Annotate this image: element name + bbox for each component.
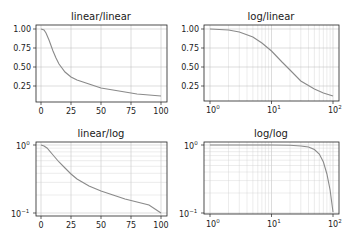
y-tick-label: 1.00 bbox=[13, 25, 31, 34]
panel-title: log/linear bbox=[248, 11, 296, 22]
panel-linear-linear: linear/linear 1.00 0.75 0.50 0.25 bbox=[13, 11, 168, 116]
y-ticks: 1.00 0.75 0.50 0.25 bbox=[13, 25, 36, 91]
x-tick-label: 100 bbox=[206, 218, 220, 229]
x-tick-label: 101 bbox=[267, 218, 281, 229]
panel-title: log/log bbox=[254, 128, 288, 139]
y-ticks: 100 10−1 bbox=[179, 140, 204, 219]
y-tick-label: 10−1 bbox=[11, 208, 29, 219]
panel-title: linear/linear bbox=[71, 11, 132, 22]
grid bbox=[36, 25, 167, 102]
y-tick-label: 0.25 bbox=[13, 82, 31, 91]
y-ticks: 100 10−1 bbox=[11, 140, 36, 219]
grid bbox=[204, 25, 339, 101]
x-tick-label: 102 bbox=[328, 218, 342, 229]
y-tick-label: 10−1 bbox=[179, 208, 197, 219]
x-tick-label: 102 bbox=[328, 104, 342, 115]
x-tick-label: 75 bbox=[126, 221, 136, 230]
x-tick-label: 100 bbox=[153, 107, 168, 116]
x-tick-label: 25 bbox=[66, 221, 76, 230]
y-tick-label: 0.75 bbox=[181, 44, 199, 53]
figure: linear/linear 1.00 0.75 0.50 0.25 bbox=[0, 0, 354, 241]
x-tick-label: 0 bbox=[38, 221, 43, 230]
y-tick-label: 0.75 bbox=[13, 44, 31, 53]
x-ticks: 0 25 50 75 100 bbox=[38, 102, 168, 116]
x-ticks: 100 101 102 bbox=[206, 214, 342, 229]
x-tick-label: 100 bbox=[206, 104, 220, 115]
y-tick-label: 0.25 bbox=[181, 82, 199, 91]
y-tick-label: 100 bbox=[16, 140, 30, 151]
panel-log-linear: log/linear bbox=[181, 11, 342, 115]
x-ticks: 0 25 50 75 100 bbox=[38, 216, 168, 230]
y-tick-label: 1.00 bbox=[181, 25, 199, 34]
x-tick-label: 50 bbox=[96, 107, 106, 116]
x-tick-label: 25 bbox=[66, 107, 76, 116]
x-tick-label: 100 bbox=[153, 221, 168, 230]
x-tick-label: 0 bbox=[38, 107, 43, 116]
panel-title: linear/log bbox=[78, 128, 125, 139]
y-tick-label: 0.50 bbox=[181, 63, 199, 72]
axes-frame bbox=[36, 25, 167, 102]
x-ticks: 100 101 102 bbox=[206, 101, 342, 115]
y-ticks: 1.00 0.75 0.50 0.25 bbox=[181, 25, 204, 91]
panel-log-log: log/log bbox=[179, 128, 342, 229]
x-tick-label: 75 bbox=[126, 107, 136, 116]
panel-linear-log: linear/log 100 10−1 bbox=[11, 128, 169, 230]
y-tick-label: 100 bbox=[184, 140, 198, 151]
y-tick-label: 0.50 bbox=[13, 63, 31, 72]
x-tick-label: 50 bbox=[96, 221, 106, 230]
x-tick-label: 101 bbox=[267, 104, 281, 115]
